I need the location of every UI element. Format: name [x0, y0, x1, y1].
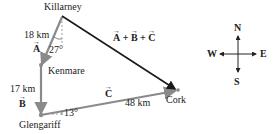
label-kenmare: Kenmare — [48, 66, 85, 76]
vector-c-angle: 13° — [64, 108, 78, 118]
kenmare-point — [39, 63, 43, 67]
vector-a-arrow — [42, 17, 62, 64]
resultant-a: A — [113, 33, 120, 43]
vector-c-distance: 48 km — [125, 98, 150, 108]
resultant-c: C — [148, 33, 155, 43]
label-glengariff: Glengariff — [19, 120, 60, 130]
compass-south: S — [234, 77, 240, 87]
vector-a-angle: 27° — [49, 45, 63, 55]
resultant-plus-2: + — [138, 32, 149, 43]
resultant-label: A + B + C — [113, 33, 156, 43]
resultant-plus-1: + — [120, 32, 131, 43]
label-cork: Cork — [166, 95, 186, 105]
angle-arc-a — [54, 37, 62, 39]
vector-c-symbol: C — [105, 89, 112, 99]
compass-east: E — [260, 49, 267, 59]
label-killarney: Killarney — [44, 2, 82, 12]
compass-north: N — [234, 23, 241, 33]
glengariff-point — [39, 113, 43, 117]
cork-point — [176, 88, 180, 92]
compass-west: W — [207, 49, 217, 59]
vector-diagram — [0, 0, 276, 134]
compass-rose — [220, 36, 256, 72]
resultant-b: B — [131, 33, 138, 43]
vector-b-symbol: B — [19, 99, 26, 109]
vector-a-symbol: A — [33, 44, 40, 54]
